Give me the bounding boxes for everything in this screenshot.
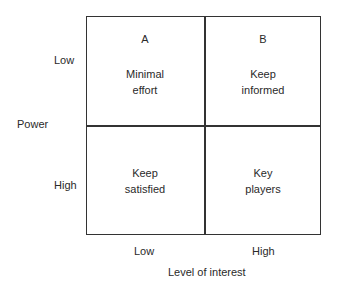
quadrant-label: Keep: [204, 66, 322, 82]
y-axis-label: Power: [17, 116, 48, 132]
quadrant-label: Minimal: [86, 66, 204, 82]
quadrant-letter: B: [204, 31, 322, 47]
y-tick-low: Low: [54, 52, 74, 68]
horizontal-divider: [86, 125, 321, 127]
x-tick-high: High: [252, 243, 275, 259]
quadrant-label: effort: [86, 82, 204, 98]
quadrant-label: informed: [204, 82, 322, 98]
quadrant-b: B Keep informed: [204, 31, 322, 98]
quadrant-letter: A: [86, 31, 204, 47]
y-tick-high: High: [54, 177, 77, 193]
quadrant-label: players: [204, 181, 322, 197]
quadrant-a: A Minimal effort: [86, 31, 204, 98]
quadrant-label: Key: [204, 165, 322, 181]
quadrant-c: Keep satisfied: [86, 165, 204, 197]
x-tick-low: Low: [134, 243, 154, 259]
quadrant-label: satisfied: [86, 181, 204, 197]
quadrant-d: Key players: [204, 165, 322, 197]
x-axis-label: Level of interest: [168, 264, 246, 280]
quadrant-label: Keep: [86, 165, 204, 181]
